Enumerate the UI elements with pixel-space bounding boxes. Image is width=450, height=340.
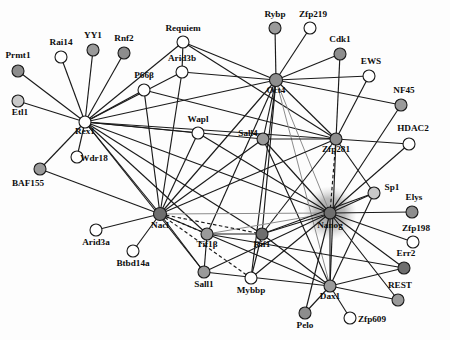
network-diagram-canvas: Prmt1Rai14YY1Rnf2Etl1Rex1Wdr18BAF155Requ… <box>0 0 450 340</box>
node-label-oct4: Oct4 <box>267 85 286 95</box>
node-elys[interactable] <box>406 206 418 218</box>
node-label-zfp281: Zfp281 <box>322 144 350 154</box>
node-label-hdac2: HDAC2 <box>397 123 429 133</box>
node-label-prmt1: Prmt1 <box>6 50 31 60</box>
node-btbd14a[interactable] <box>127 245 139 257</box>
node-label-elys: Elys <box>406 192 423 202</box>
node-baf155[interactable] <box>34 163 46 175</box>
node-mybbp[interactable] <box>245 272 257 284</box>
node-yy1[interactable] <box>87 44 99 56</box>
node-nacl[interactable] <box>154 208 167 221</box>
node-label-wapl: Wapl <box>188 114 209 124</box>
node-ews[interactable] <box>363 70 375 82</box>
node-sall1[interactable] <box>198 266 210 278</box>
node-label-rex1: Rex1 <box>75 126 95 136</box>
node-label-baf155: BAF155 <box>12 178 45 188</box>
node-label-arid3b: Arid3b <box>168 53 196 63</box>
node-label-err2: Err2 <box>397 248 416 258</box>
node-sall4[interactable] <box>257 133 269 145</box>
node-label-nanog: Nanog <box>317 220 343 230</box>
node-label-rybp: Rybp <box>264 9 285 19</box>
node-label-etl1: Etl1 <box>12 107 29 117</box>
node-label-tif1b: Tif1β <box>196 239 217 249</box>
node-label-sall1: Sall1 <box>194 279 214 289</box>
node-etl1[interactable] <box>12 95 24 107</box>
node-label-sp1: Sp1 <box>385 182 400 192</box>
node-label-ews: EWS <box>361 56 381 66</box>
node-label-pelo: Pelo <box>297 320 314 330</box>
node-p66b[interactable] <box>138 84 150 96</box>
node-requiem[interactable] <box>177 36 189 48</box>
node-label-zfp198: Zfp198 <box>402 223 430 233</box>
node-sp1[interactable] <box>368 187 380 199</box>
node-label-rest: REST <box>388 280 412 290</box>
node-rest[interactable] <box>392 294 404 306</box>
node-hdac2[interactable] <box>403 138 415 150</box>
node-label-sall4: Sall4 <box>238 128 258 138</box>
node-cdk1[interactable] <box>334 48 346 60</box>
node-label-zfp609: Zfp609 <box>358 314 386 324</box>
node-nanog[interactable] <box>324 207 336 219</box>
node-label-rnf2: Rnf2 <box>114 33 134 43</box>
node-label-wdr18: Wdr18 <box>80 153 108 163</box>
node-nf45[interactable] <box>395 99 407 111</box>
node-label-nacl: Nacl <box>151 220 169 230</box>
node-pelo[interactable] <box>299 307 311 319</box>
node-label-arid3a: Arid3a <box>82 237 110 247</box>
node-label-rif1: Rif1 <box>254 239 271 249</box>
node-rai14[interactable] <box>55 51 67 63</box>
network-graph: Prmt1Rai14YY1Rnf2Etl1Rex1Wdr18BAF155Requ… <box>0 0 450 340</box>
node-prmt1[interactable] <box>12 65 24 77</box>
node-label-btbd14a: Btbd14a <box>116 258 150 268</box>
diagram-background <box>0 0 450 340</box>
node-label-rai14: Rai14 <box>50 37 73 47</box>
node-label-yy1: YY1 <box>84 30 102 40</box>
node-rybp[interactable] <box>269 22 281 34</box>
node-arid3b[interactable] <box>176 66 188 78</box>
node-zfp609[interactable] <box>344 312 356 324</box>
node-label-zfp219: Zfp219 <box>299 9 327 19</box>
node-rnf2[interactable] <box>118 47 130 59</box>
node-zfp198[interactable] <box>407 236 419 248</box>
node-err2[interactable] <box>398 262 410 274</box>
node-label-p66b: P66β <box>134 70 154 80</box>
node-label-requiem: Requiem <box>165 23 201 33</box>
node-label-mybbp: Mybbp <box>237 285 266 295</box>
node-label-nf45: NF45 <box>393 85 415 95</box>
node-label-dax1: Dax1 <box>320 291 341 301</box>
node-wapl[interactable] <box>192 127 204 139</box>
node-zfp219[interactable] <box>304 22 316 34</box>
node-label-cdk1: Cdk1 <box>329 34 351 44</box>
node-arid3a[interactable] <box>90 224 102 236</box>
